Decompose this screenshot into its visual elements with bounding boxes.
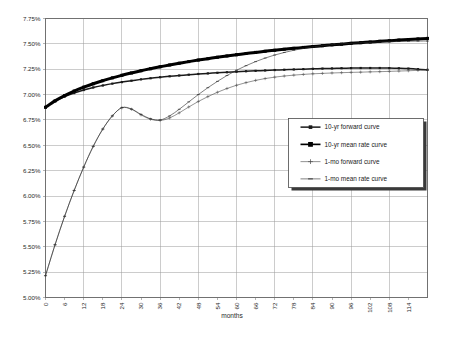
x-axis-tick-label: 24 [118,302,125,309]
x-axis-tick-label: 102 [366,302,373,313]
x-axis-tick-label: 96 [347,302,354,309]
y-axis-tick-label: 6.50% [23,142,41,149]
legend-label: 1-mo mean rate curve [325,175,388,182]
x-axis-tick-label: 114 [405,302,412,312]
series-marker [92,82,95,85]
series-marker [140,69,143,72]
series-marker [245,52,248,55]
series-marker [264,50,267,53]
y-axis-tick-label: 5.75% [23,218,41,225]
legend-marker-square-icon [309,125,313,129]
x-axis-tick-label: 60 [233,302,240,309]
series-marker [206,57,209,60]
series-marker [92,86,94,88]
x-axis-tick-label: 48 [195,302,202,309]
x-axis-tick-label: 12 [80,302,87,309]
y-axis-tick-label: 5.50% [23,243,41,250]
y-axis-tick-label: 5.25% [23,268,41,275]
x-axis-tick-label: 108 [386,302,393,313]
series-marker [82,86,85,89]
series-marker [83,89,85,91]
series-marker [197,59,200,62]
series-marker [130,80,132,82]
series-marker [169,75,171,77]
x-axis-tick-label: 78 [290,302,297,309]
y-axis-tick-label: 6.25% [23,167,41,174]
series-marker [379,67,381,69]
legend-label: 10-yr forward curve [325,123,380,131]
series-marker [274,69,276,71]
series-marker [111,83,113,85]
series-marker [149,67,152,70]
series-marker [159,76,161,78]
series-marker [197,73,199,75]
series-marker [120,74,123,77]
series-marker [302,68,304,70]
series-marker [398,67,400,69]
series-marker [159,65,162,68]
x-axis-tick-label: 18 [99,302,106,309]
x-axis-tick-label: 54 [214,302,221,309]
series-marker [293,68,295,70]
x-axis-tick-label: 42 [175,302,182,309]
series-marker [235,53,238,56]
x-axis-tick-label: 30 [137,302,144,309]
legend-marker-filled-square-icon [308,142,313,147]
series-marker [216,56,219,59]
series-marker [178,74,180,76]
series-marker [188,74,190,76]
series-marker [187,60,190,63]
legend-label: 1-mo forward curve [325,158,380,165]
series-marker [416,37,419,40]
x-axis-tick-label: 84 [309,302,316,309]
series-marker [111,76,114,79]
series-marker [168,63,171,66]
series-marker [63,94,66,97]
series-marker [245,70,247,72]
series-marker [388,67,390,69]
series-marker [216,72,218,74]
series-marker [340,67,342,69]
y-axis-tick-label: 7.00% [23,91,41,98]
x-axis-title: months [221,312,243,319]
series-marker [255,70,257,72]
series-marker [331,67,333,69]
series-marker [54,99,57,102]
x-axis-tick-label: 36 [156,302,163,309]
chart-container: 5.00%5.25%5.50%5.75%6.00%6.25%6.50%6.75%… [0,0,465,337]
legend-label: 10-yr mean rate curve [325,141,388,149]
series-marker [321,68,323,70]
series-marker [311,45,314,48]
x-axis-tick-label: 6 [61,302,68,306]
series-marker [102,84,104,86]
series-marker [207,72,209,74]
x-axis-tick-label: 0 [42,302,49,306]
series-marker [397,39,400,42]
series-marker [312,68,314,70]
series-marker [350,67,352,69]
x-axis-tick-label: 72 [271,302,278,309]
x-axis-tick-label: 66 [252,302,259,309]
series-marker [101,79,104,82]
series-marker [121,81,123,83]
series-marker [273,49,276,52]
series-marker [130,71,133,74]
series-marker [407,38,410,41]
series-marker [178,62,181,65]
series-marker [264,69,266,71]
series-marker [292,47,295,50]
series-marker [283,69,285,71]
series-marker [426,37,429,40]
rate-curves-chart: 5.00%5.25%5.50%5.75%6.00%6.25%6.50%6.75%… [0,0,465,337]
x-axis-tick-label: 90 [328,302,335,309]
series-marker [226,71,228,73]
y-axis-tick-label: 5.00% [23,294,41,301]
series-marker [283,48,286,51]
series-marker [140,78,142,80]
series-marker [369,67,371,69]
series-marker [73,90,76,93]
series-marker [44,106,47,109]
y-axis-tick-label: 7.25% [23,65,41,72]
series-marker [225,54,228,57]
series-marker [149,77,151,79]
